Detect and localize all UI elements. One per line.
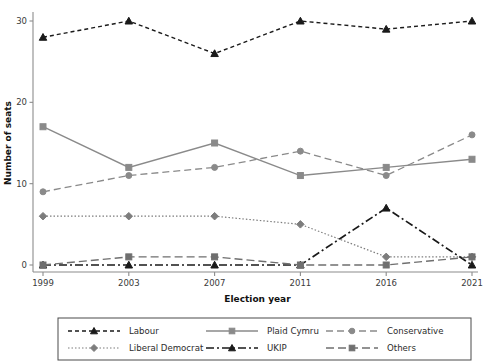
data-point	[383, 173, 389, 179]
legend-item-liberal-democrat[interactable]: Liberal Democrat	[68, 343, 204, 353]
data-point	[297, 221, 305, 229]
seats-line-chart: 0102030199920032007201120162021Election …	[0, 0, 483, 363]
series-conservative	[40, 132, 475, 195]
plot-area	[39, 17, 476, 268]
axes: 0102030199920032007201120162021Election …	[3, 12, 483, 304]
legend-label: Plaid Cymru	[267, 326, 319, 336]
series-line	[43, 257, 472, 265]
legend-label: Others	[387, 343, 416, 353]
data-point	[126, 164, 132, 170]
legend-label: Liberal Democrat	[129, 343, 204, 353]
legend-item-ukip[interactable]: UKIP	[206, 343, 287, 353]
data-point	[297, 173, 303, 179]
data-point	[125, 17, 133, 24]
y-tick-label: 30	[16, 16, 27, 26]
legend-marker-sample	[91, 345, 98, 352]
data-point	[383, 164, 389, 170]
x-tick-label: 2007	[204, 278, 226, 288]
data-point	[297, 262, 303, 268]
data-point	[211, 212, 219, 220]
series-ukip	[39, 204, 476, 268]
data-point	[382, 204, 390, 211]
data-point	[297, 148, 303, 154]
legend-label: Labour	[129, 326, 159, 336]
data-point	[40, 189, 46, 195]
legend-marker-sample	[349, 345, 355, 351]
legend-marker-sample	[229, 328, 235, 334]
data-point	[125, 212, 133, 220]
legend-label: UKIP	[267, 343, 287, 353]
series-plaid-cymru	[40, 124, 475, 179]
series-line	[43, 21, 472, 54]
y-tick-label: 10	[16, 179, 27, 189]
series-labour	[39, 17, 476, 56]
x-tick-label: 2003	[118, 278, 140, 288]
data-point	[40, 262, 46, 268]
data-point	[212, 140, 218, 146]
legend-item-labour[interactable]: Labour	[68, 326, 159, 336]
data-point	[383, 262, 389, 268]
data-point	[212, 254, 218, 260]
y-axis-title: Number of seats	[3, 101, 13, 185]
legend-item-conservative[interactable]: Conservative	[326, 326, 444, 336]
x-axis-title: Election year	[224, 294, 291, 304]
x-tick-label: 2016	[375, 278, 397, 288]
data-point	[126, 254, 132, 260]
data-point	[382, 253, 390, 261]
data-point	[211, 261, 219, 268]
data-point	[469, 132, 475, 138]
legend-border	[58, 318, 471, 360]
chart-legend: LabourPlaid CymruConservativeLiberal Dem…	[58, 318, 471, 360]
data-point	[212, 164, 218, 170]
data-point	[40, 124, 46, 130]
x-tick-label: 1999	[32, 278, 54, 288]
data-point	[469, 254, 475, 260]
legend-item-plaid-cymru[interactable]: Plaid Cymru	[206, 326, 319, 336]
series-liberal-democrat	[39, 212, 476, 260]
x-tick-label: 2021	[461, 278, 483, 288]
series-others	[40, 254, 475, 268]
series-line	[43, 135, 472, 192]
legend-marker-sample	[349, 328, 355, 334]
x-tick-label: 2011	[290, 278, 312, 288]
data-point	[126, 173, 132, 179]
series-line	[43, 127, 472, 176]
y-tick-label: 20	[16, 97, 27, 107]
y-tick-label: 0	[22, 260, 27, 270]
legend-label: Conservative	[387, 326, 444, 336]
data-point	[468, 17, 476, 24]
data-point	[469, 156, 475, 162]
chart-container: 0102030199920032007201120162021Election …	[0, 0, 483, 363]
legend-item-others[interactable]: Others	[326, 343, 416, 353]
data-point	[39, 212, 47, 220]
